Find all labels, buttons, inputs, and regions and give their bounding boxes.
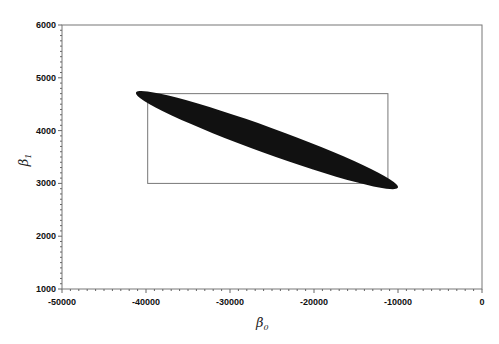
plot-frame [62,25,482,289]
y-tick-label: 4000 [36,126,56,136]
x-tick-label: -10000 [384,297,412,307]
x-tick-label: -50000 [48,297,76,307]
x-tick-label: -30000 [216,297,244,307]
y-axis: 100020003000400050006000 [36,20,62,294]
plot-shapes [131,80,402,199]
x-tick-label: 0 [479,297,484,307]
y-tick-label: 3000 [36,178,56,188]
x-axis: -50000-40000-30000-20000-100000 [48,289,485,307]
y-tick-label: 2000 [36,231,56,241]
x-tick-label: -20000 [300,297,328,307]
y-tick-label: 5000 [36,73,56,83]
x-axis-label: β0 [255,315,269,332]
y-tick-label: 6000 [36,20,56,30]
joint-confidence-ellipse [131,80,402,199]
y-tick-label: 1000 [36,284,56,294]
chart: -50000-40000-30000-20000-100000 10002000… [0,0,499,344]
x-tick-label: -40000 [132,297,160,307]
y-axis-label: β1 [16,154,33,168]
y-axis-label-group: β1 [16,154,33,168]
